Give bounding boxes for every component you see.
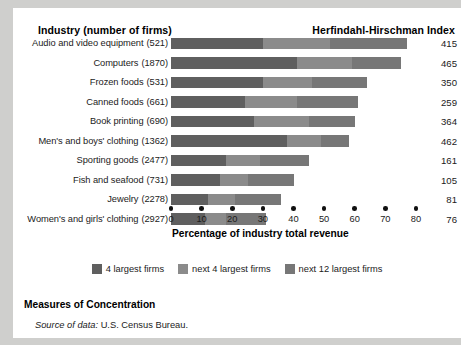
industry-label: Canned foods(661): [86, 97, 168, 107]
stacked-bar: [171, 57, 401, 69]
bar-segment: [287, 135, 321, 147]
firm-count: (521): [147, 38, 168, 48]
bar-segment: [248, 174, 294, 186]
stacked-bar: [171, 38, 407, 50]
table-row: Audio and video equipment(521)415: [13, 36, 461, 56]
firm-count: (2477): [141, 155, 168, 165]
stacked-bar: [171, 96, 358, 108]
footer-title: Measures of Concentration: [24, 299, 155, 310]
bar-segment: [254, 116, 309, 128]
bar-segment: [309, 116, 355, 128]
bar-segment: [171, 77, 263, 89]
bar-segment: [208, 194, 236, 206]
stacked-bar: [171, 135, 349, 147]
bar-segment: [245, 96, 297, 108]
bar-segment: [263, 77, 312, 89]
stacked-bar: [171, 174, 294, 186]
footer-source: Source of data: U.S. Census Bureau.: [35, 320, 188, 330]
bar-segment: [220, 174, 248, 186]
bar-segment: [171, 96, 245, 108]
table-row: Fish and seafood(731)105: [13, 173, 461, 193]
chart-panel: Industry (number of firms) Herfindahl-Hi…: [13, 8, 461, 338]
stacked-bar: [171, 116, 355, 128]
stacked-bar: [171, 155, 309, 167]
industry-label: Audio and video equipment(521): [32, 38, 168, 48]
firm-count: (731): [147, 175, 168, 185]
axis-tick-label: 30: [258, 214, 268, 224]
hhi-value: 462: [417, 136, 457, 147]
hhi-value: 81: [417, 194, 457, 205]
table-row: Canned foods(661)259: [13, 95, 461, 115]
axis-tick-dot: [199, 206, 204, 211]
industry-label: Computers(1870): [93, 58, 168, 68]
legend-swatch: [178, 264, 188, 274]
axis-tick-dot: [261, 206, 266, 211]
axis-tick-label: 70: [380, 214, 390, 224]
firm-count: (531): [147, 77, 168, 87]
legend-label: next 12 largest firms: [299, 264, 383, 274]
firm-count: (661): [147, 97, 168, 107]
industry-label: Men's and boys' clothing(1362): [38, 136, 168, 146]
bar-segment: [330, 38, 407, 50]
legend-label: 4 largest firms: [106, 264, 164, 274]
axis-tick-label: 60: [350, 214, 360, 224]
bar-segment: [171, 38, 263, 50]
chart-legend: 4 largest firmsnext 4 largest firmsnext …: [13, 264, 461, 274]
stacked-bar: [171, 194, 281, 206]
source-label: Source of data:: [35, 320, 98, 330]
axis-tick-label: 20: [227, 214, 237, 224]
legend-item: next 4 largest firms: [178, 264, 271, 274]
legend-swatch: [92, 264, 102, 274]
hhi-value: 465: [417, 58, 457, 69]
axis-tick-dot: [291, 206, 296, 211]
screenshot-root: Industry (number of firms) Herfindahl-Hi…: [0, 0, 461, 345]
firm-count: (1362): [141, 136, 168, 146]
hhi-value: 415: [417, 38, 457, 49]
table-row: Computers(1870)465: [13, 56, 461, 76]
x-axis: Percentage of industry total revenue 010…: [13, 206, 461, 252]
bar-segment: [171, 57, 297, 69]
bar-segment: [171, 174, 220, 186]
axis-tick-dot: [322, 206, 327, 211]
hhi-value: 350: [417, 77, 457, 88]
bar-segment: [263, 38, 330, 50]
bar-segment: [297, 57, 352, 69]
hhi-value: 364: [417, 116, 457, 127]
table-row: Sporting goods(2477)161: [13, 153, 461, 173]
bar-segment: [321, 135, 349, 147]
industry-label: Jewelry(2278): [107, 194, 168, 204]
axis-tick-dot: [352, 206, 357, 211]
legend-item: 4 largest firms: [92, 264, 164, 274]
industry-label: Sporting goods(2477): [77, 155, 168, 165]
industry-label: Frozen foods(531): [90, 77, 168, 87]
bar-segment: [297, 96, 358, 108]
bar-segment: [171, 116, 254, 128]
bar-segment: [171, 155, 226, 167]
industry-label: Book printing(690): [90, 116, 168, 126]
axis-tick-label: 40: [288, 214, 298, 224]
axis-tick-label: 80: [411, 214, 421, 224]
bar-segment: [171, 194, 208, 206]
legend-item: next 12 largest firms: [285, 264, 383, 274]
source-value: U.S. Census Bureau.: [101, 320, 188, 330]
axis-tick-dot: [169, 206, 174, 211]
firm-count: (1870): [141, 58, 168, 68]
bar-segment: [171, 135, 287, 147]
legend-swatch: [285, 264, 295, 274]
bar-segment: [260, 155, 309, 167]
firm-count: (690): [147, 116, 168, 126]
axis-tick-label: 10: [196, 214, 206, 224]
axis-tick-dot: [383, 206, 388, 211]
x-axis-title: Percentage of industry total revenue: [172, 228, 349, 239]
hhi-value: 161: [417, 155, 457, 166]
table-row: Men's and boys' clothing(1362)462: [13, 134, 461, 154]
legend-label: next 4 largest firms: [192, 264, 271, 274]
axis-tick-dot: [230, 206, 235, 211]
hhi-value: 105: [417, 175, 457, 186]
table-row: Frozen foods(531)350: [13, 75, 461, 95]
industry-label: Fish and seafood(731): [73, 175, 168, 185]
bar-segment: [352, 57, 401, 69]
table-row: Book printing(690)364: [13, 114, 461, 134]
hhi-value: 259: [417, 97, 457, 108]
bar-segment: [235, 194, 281, 206]
